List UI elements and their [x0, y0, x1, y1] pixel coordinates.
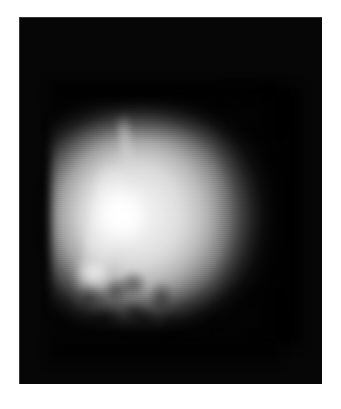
top-limb-shading: [49, 81, 279, 137]
dark-mottling-region-a: [67, 275, 147, 337]
figure-root: [0, 0, 341, 409]
image-plate: [19, 17, 322, 384]
planet-disk-body: [51, 101, 273, 329]
right-limb-shading: [215, 87, 301, 345]
plate-border: [19, 17, 322, 384]
image-grain-texture: [19, 17, 322, 384]
bottom-limb-shading: [49, 291, 279, 361]
secondary-bright-knot: [71, 253, 117, 293]
top-bright-filament: [116, 113, 134, 168]
dark-mottling-region-b: [111, 263, 185, 339]
diagonal-bright-streak: [72, 164, 129, 316]
bright-core-region: [77, 169, 169, 265]
planet-disk-halo: [37, 89, 287, 341]
